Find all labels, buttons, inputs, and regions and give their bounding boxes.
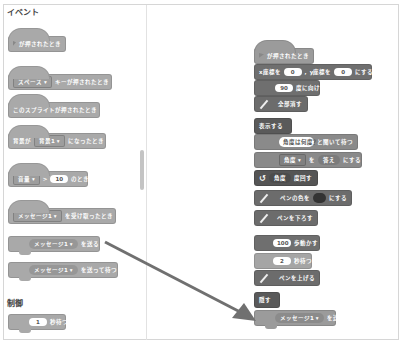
drag-arrow-annotation: [0, 0, 404, 348]
